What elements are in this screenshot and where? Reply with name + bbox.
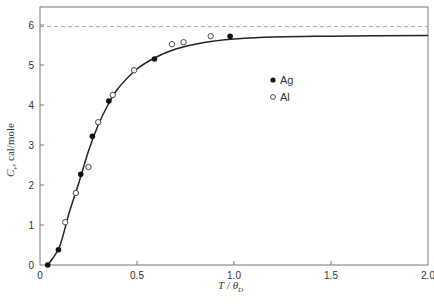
y-tick-label: 1	[28, 220, 34, 231]
data-point-ag	[106, 98, 112, 104]
y-tick-label: 3	[28, 140, 34, 151]
data-points	[45, 33, 233, 267]
y-tick-label: 4	[28, 100, 34, 111]
y-tick-label: 0	[28, 260, 34, 271]
y-tick-label: 6	[28, 20, 34, 31]
svg-text:Cv, cal/mole: Cv, cal/mole	[4, 123, 19, 177]
plot-frame	[40, 7, 428, 265]
x-axis-label: T / θD	[218, 279, 243, 294]
y-axis-label: Cv, cal/mole	[4, 123, 19, 177]
legend-al-label: Al	[280, 91, 290, 103]
x-tick-label: 1.5	[324, 270, 338, 281]
legend: Ag Al	[270, 74, 293, 103]
data-point-ag	[78, 171, 84, 177]
y-tick-label: 5	[28, 60, 34, 71]
data-point-al	[131, 68, 136, 73]
plot-border	[40, 7, 428, 265]
debye-curve-path	[48, 35, 428, 265]
data-point-ag	[45, 262, 51, 268]
svg-text:T / θD: T / θD	[218, 279, 243, 294]
data-point-al	[208, 34, 213, 39]
data-point-al	[73, 190, 78, 195]
x-tick-label: 2.0	[421, 270, 434, 281]
y-tick-label: 2	[28, 180, 34, 191]
x-tick-label: 0.5	[130, 270, 144, 281]
data-point-al	[110, 92, 115, 97]
data-point-al	[169, 42, 174, 47]
data-point-al	[96, 120, 101, 125]
legend-al-marker	[271, 95, 276, 100]
data-point-ag	[56, 247, 62, 253]
data-point-al	[86, 164, 91, 169]
data-point-ag	[90, 133, 96, 139]
heat-capacity-chart: 00.51.01.52.00123456 Ag Al T / θD Cv, ca…	[0, 0, 434, 304]
legend-ag-marker	[270, 77, 275, 82]
legend-ag-label: Ag	[280, 74, 293, 86]
data-point-ag	[152, 56, 158, 62]
x-tick-label: 0	[37, 270, 43, 281]
data-point-ag	[227, 33, 233, 39]
data-point-al	[63, 220, 68, 225]
debye-curve	[48, 35, 428, 265]
data-point-al	[181, 40, 186, 45]
